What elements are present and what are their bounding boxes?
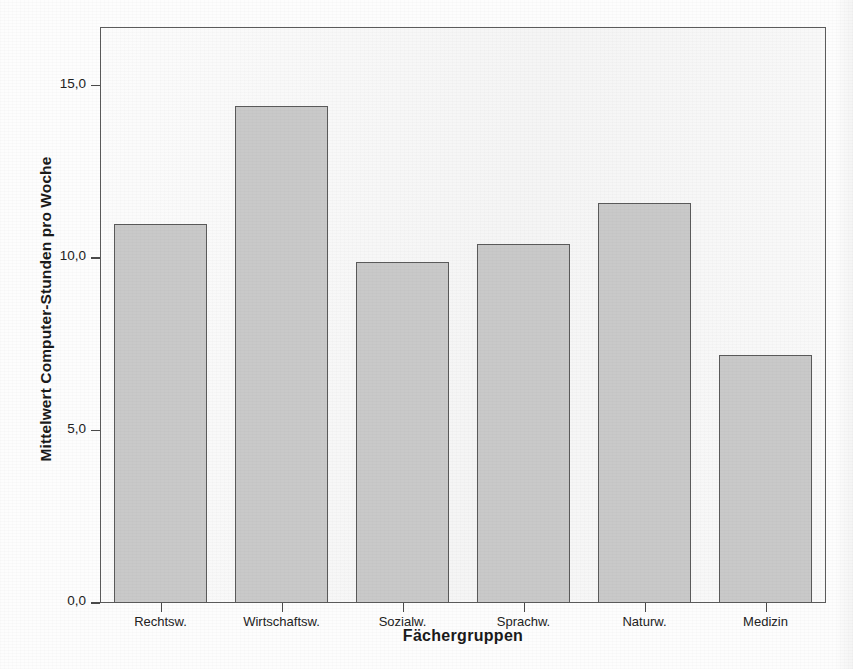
bar-sozialw (356, 262, 448, 603)
y-tick-mark (91, 430, 100, 432)
y-tick-label: 10,0 (60, 248, 86, 263)
plot-area (100, 27, 826, 603)
y-tick-label: 0,0 (67, 593, 86, 608)
x-tick-mark (161, 603, 163, 612)
y-tick-label: 5,0 (67, 421, 86, 436)
bar-wirtschaftsw (235, 106, 327, 603)
x-axis-title: Fächergruppen (100, 627, 826, 645)
x-tick-mark (766, 603, 768, 612)
bar-naturw (598, 203, 690, 603)
x-tick-mark (645, 603, 647, 612)
x-tick-mark (403, 603, 405, 612)
x-tick-mark (524, 603, 526, 612)
x-tick-mark (282, 603, 284, 612)
plot-background (101, 28, 825, 602)
y-tick-mark (91, 257, 100, 259)
bar-sprachw (477, 244, 569, 603)
y-axis-title: Mittelwert Computer-Stunden pro Woche (37, 109, 55, 509)
bar-rechtsw (114, 224, 206, 603)
y-tick-label: 15,0 (60, 76, 86, 91)
y-tick-mark (91, 85, 100, 87)
y-tick-mark (91, 602, 100, 604)
bar-medizin (719, 355, 811, 603)
bar-chart-figure: Mittelwert Computer-Stunden pro Woche 0,… (0, 0, 853, 669)
